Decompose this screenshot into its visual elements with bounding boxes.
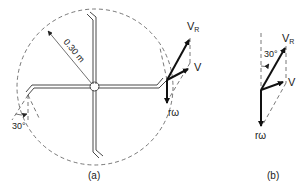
- rw-label-b: rω: [255, 130, 266, 141]
- angle-label-a: 30°: [12, 121, 26, 131]
- v-label-b: V: [288, 76, 296, 88]
- nozzle-angle-indicator: 30°: [12, 95, 40, 131]
- rw-label-a: rω: [168, 107, 179, 118]
- panel-b: 30° VR V rω (b): [255, 32, 296, 181]
- v-label-a: V: [194, 61, 202, 73]
- vr-label-b: VR: [282, 32, 294, 45]
- radius-label: 0.30 m: [61, 37, 86, 65]
- radius-dimension: 0.30 m: [48, 31, 92, 84]
- panel-a: 0.30 m 30° VR V rω (a): [12, 9, 202, 181]
- caption-b: (b): [267, 170, 279, 181]
- angle-label-b: 30°: [264, 49, 278, 59]
- caption-a: (a): [88, 170, 100, 181]
- vr-label-a: VR: [187, 20, 199, 33]
- sprinkler-velocity-diagram: 0.30 m 30° VR V rω (a): [0, 0, 306, 190]
- velocity-vectors-a: VR V rω: [160, 20, 202, 118]
